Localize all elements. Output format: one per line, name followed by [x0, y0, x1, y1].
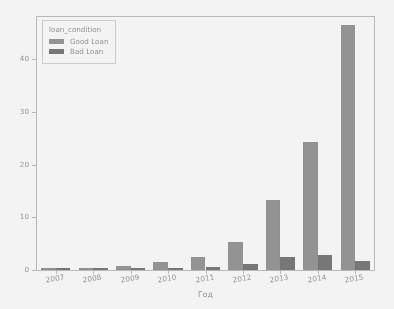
bar-2010-good-loan — [153, 262, 168, 270]
bar-2011-bad-loan — [206, 267, 221, 270]
x-axis-label: Год — [36, 290, 375, 299]
bar-2013-bad-loan — [280, 257, 295, 270]
bar-2009-bad-loan — [131, 268, 146, 270]
plot-axes: loan_condition Good Loan Bad Loan — [36, 16, 375, 271]
bar-2009-good-loan — [116, 266, 131, 270]
x-axis-tick-label: 2007 — [42, 272, 67, 285]
y-axis-tick — [32, 270, 37, 271]
legend-swatch-good-loan — [49, 39, 64, 44]
x-axis-tick-label: 2014 — [304, 272, 329, 285]
bar-2010-bad-loan — [168, 268, 183, 270]
bar-2012-bad-loan — [243, 264, 258, 270]
legend-swatch-bad-loan — [49, 49, 64, 54]
chart-legend: loan_condition Good Loan Bad Loan — [42, 20, 116, 64]
y-axis-tick-label: 30 — [5, 106, 29, 115]
legend-item-good-loan: Good Loan — [49, 37, 108, 46]
bar-2012-good-loan — [228, 242, 243, 270]
y-axis-tick — [32, 59, 37, 60]
legend-title: loan_condition — [49, 25, 108, 34]
bar-2008-good-loan — [79, 268, 94, 270]
bar-2013-good-loan — [266, 200, 281, 270]
bar-2014-good-loan — [303, 142, 318, 270]
legend-item-bad-loan: Bad Loan — [49, 47, 108, 56]
y-axis-tick-label: 20 — [5, 159, 29, 168]
y-axis-tick-label: 40 — [5, 54, 29, 63]
bar-2011-good-loan — [191, 257, 206, 270]
legend-label-bad-loan: Bad Loan — [70, 47, 103, 56]
x-axis-tick-label: 2012 — [229, 272, 254, 285]
bar-2015-good-loan — [341, 25, 356, 270]
legend-label-good-loan: Good Loan — [70, 37, 108, 46]
x-axis-tick-label: 2008 — [80, 272, 105, 285]
y-axis-tick-label: 0 — [5, 265, 29, 274]
x-axis-tick-label: 2013 — [267, 272, 292, 285]
y-axis-tick-label: 10 — [5, 212, 29, 221]
bar-chart-figure: loan_condition Good Loan Bad Loan Год 01… — [0, 0, 394, 309]
bar-2007-bad-loan — [56, 268, 71, 270]
y-axis-tick — [32, 217, 37, 218]
bar-2008-bad-loan — [93, 268, 108, 270]
bar-2007-good-loan — [41, 268, 56, 270]
x-axis-tick-label: 2011 — [192, 272, 217, 285]
x-axis-tick-label: 2009 — [117, 272, 142, 285]
x-axis-tick-label: 2010 — [154, 272, 179, 285]
x-axis-tick-label: 2015 — [342, 272, 367, 285]
y-axis-tick — [32, 165, 37, 166]
bar-2014-bad-loan — [318, 255, 333, 270]
bar-2015-bad-loan — [355, 261, 370, 270]
y-axis-tick — [32, 112, 37, 113]
